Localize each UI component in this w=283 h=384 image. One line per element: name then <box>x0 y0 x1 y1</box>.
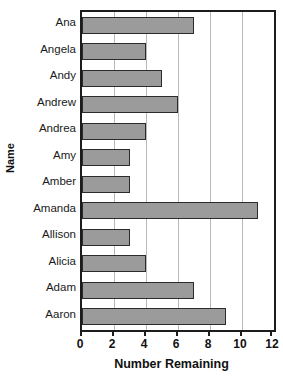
category-label: Ana <box>14 17 76 29</box>
x-axis-tick-label: 8 <box>194 337 222 351</box>
category-label: Allison <box>14 229 76 241</box>
x-axis-tick-label: 12 <box>258 337 283 351</box>
x-axis-title: Number Remaining <box>60 357 283 371</box>
bar <box>82 17 194 34</box>
category-label: Amy <box>14 150 76 162</box>
category-label: Amanda <box>14 203 76 215</box>
bar-chart: Name AnaAngelaAndyAndrewAndreaAmyAmberAm… <box>0 0 283 384</box>
x-axis-tick-label: 0 <box>66 337 94 351</box>
plot-area <box>80 10 276 332</box>
x-axis-ticks <box>80 330 272 336</box>
bar <box>82 149 130 166</box>
bars-layer <box>82 12 274 330</box>
x-axis-tick-label: 10 <box>226 337 254 351</box>
bar <box>82 308 226 325</box>
x-axis-tick-label: 2 <box>98 337 126 351</box>
x-axis-tick <box>240 330 242 336</box>
category-label: Amber <box>14 176 76 188</box>
x-axis-tick <box>144 330 146 336</box>
bar <box>82 282 194 299</box>
category-label: Aaron <box>14 309 76 321</box>
bar <box>82 229 130 246</box>
bar <box>82 255 146 272</box>
category-label: Andrea <box>14 123 76 135</box>
category-label: Andy <box>14 70 76 82</box>
x-axis-tick <box>270 330 272 336</box>
bar <box>82 176 130 193</box>
bar <box>82 96 178 113</box>
category-label-list: AnaAngelaAndyAndrewAndreaAmyAmberAmandaA… <box>14 10 76 328</box>
category-label: Adam <box>14 282 76 294</box>
bar <box>82 43 146 60</box>
x-axis-tick <box>80 330 82 336</box>
x-axis-tick <box>208 330 210 336</box>
bar <box>82 123 146 140</box>
category-label: Andrew <box>14 97 76 109</box>
x-axis-tick-label: 6 <box>162 337 190 351</box>
x-axis-tick-labels: 024681012 <box>80 337 272 353</box>
category-label: Alicia <box>14 256 76 268</box>
x-axis-tick <box>112 330 114 336</box>
category-label: Angela <box>14 44 76 56</box>
bar <box>82 202 258 219</box>
x-axis-tick <box>176 330 178 336</box>
bar <box>82 70 162 87</box>
x-axis-tick-label: 4 <box>130 337 158 351</box>
